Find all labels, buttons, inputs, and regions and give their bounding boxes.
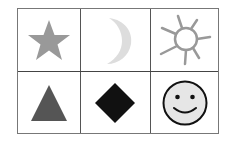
cell-crescent-moon: crescent moon [80,9,150,71]
triangle-icon [29,83,69,123]
star-icon [26,18,72,62]
cell-smiley-face: smiley face [150,71,220,135]
cell-star: star [18,9,80,71]
shape-grid: star crescent moon sun triangle [17,8,219,134]
cell-triangle: triangle [18,71,80,135]
smiley-face-icon [161,79,209,127]
cell-diamond: diamond [80,71,150,135]
crescent-moon-icon [95,14,135,66]
sun-icon [157,12,213,68]
diamond-icon [94,82,136,124]
cell-sun: sun [150,9,220,71]
